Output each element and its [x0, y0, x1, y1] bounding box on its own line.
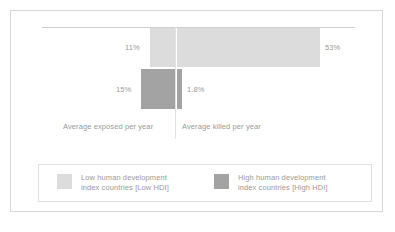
chart-legend: Low human development index countries [L…: [38, 164, 372, 202]
legend-item-low-hdi[interactable]: Low human development index countries [L…: [57, 173, 169, 193]
axis-label-average-exposed: Average exposed per year: [63, 122, 153, 131]
value-label-high-hdi-killed: 1.8%: [187, 85, 205, 94]
legend-label-low-hdi: Low human development index countries [L…: [81, 173, 169, 193]
legend-swatch-low-hdi: [57, 174, 72, 189]
chart-figure: 11% 53% 15% 1.8% Average exposed per yea…: [0, 0, 395, 232]
value-label-low-hdi-killed: 53%: [325, 43, 340, 52]
legend-item-high-hdi[interactable]: High human development index countries […: [214, 173, 328, 193]
bar-high-hdi-exposed[interactable]: [141, 69, 175, 109]
legend-label-low-hdi-line2: index countries [Low HDI]: [81, 183, 169, 193]
bar-low-hdi-killed[interactable]: [177, 28, 320, 67]
axis-label-average-killed: Average killed per year: [182, 122, 261, 131]
bar-high-hdi-killed[interactable]: [177, 69, 182, 109]
legend-label-high-hdi: High human development index countries […: [238, 173, 328, 193]
plot-area: 11% 53% 15% 1.8% Average exposed per yea…: [10, 10, 383, 145]
value-label-low-hdi-exposed: 11%: [125, 43, 140, 52]
value-label-high-hdi-exposed: 15%: [116, 85, 131, 94]
legend-label-low-hdi-line1: Low human development: [81, 173, 167, 182]
legend-label-high-hdi-line2: index countries [High HDI]: [238, 183, 328, 193]
legend-label-high-hdi-line1: High human development: [238, 173, 326, 182]
center-axis-line: [175, 27, 176, 139]
bar-low-hdi-exposed[interactable]: [150, 28, 175, 67]
legend-swatch-high-hdi: [214, 174, 229, 189]
